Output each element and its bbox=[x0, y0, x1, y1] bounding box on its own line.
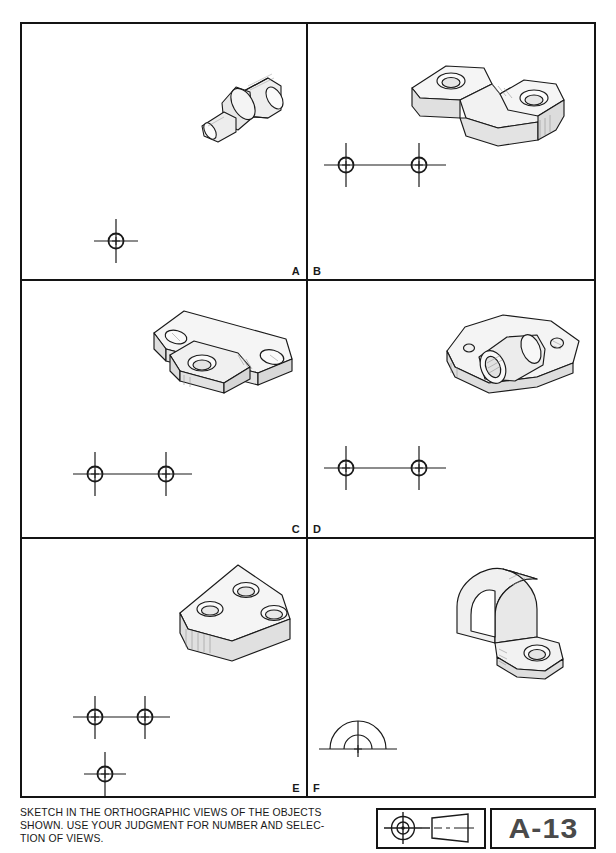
panel-grid: A bbox=[20, 22, 596, 798]
panel-d[interactable]: D bbox=[308, 281, 594, 538]
panel-c[interactable]: C bbox=[22, 281, 308, 538]
layout-marks-panel-b bbox=[321, 134, 457, 196]
panel-a[interactable]: A bbox=[22, 24, 308, 281]
panel-label-f: F bbox=[313, 782, 320, 794]
layout-marks-panel-a bbox=[76, 210, 156, 272]
pictorial-triangular-three-hole-plate bbox=[170, 557, 308, 662]
panel-e[interactable]: E bbox=[22, 539, 308, 796]
view-symbol-box bbox=[376, 808, 486, 849]
panel-label-d: D bbox=[313, 523, 321, 535]
pictorial-stepped-cylindrical-shaft bbox=[180, 56, 300, 166]
panel-f[interactable]: F bbox=[308, 539, 594, 796]
panel-label-b: B bbox=[313, 265, 321, 277]
layout-marks-panel-c bbox=[70, 443, 200, 505]
worksheet-sheet: A bbox=[0, 0, 616, 853]
title-strip: SKETCH IN THE ORTHOGRAPHIC VIEWS OF THE … bbox=[20, 806, 596, 851]
panel-label-c: C bbox=[292, 523, 300, 535]
layout-marks-panel-f bbox=[313, 705, 403, 767]
layout-marks-panel-e bbox=[70, 691, 200, 796]
orthographic-projection-symbol bbox=[378, 810, 484, 847]
pictorial-saddle-strap-clamp bbox=[433, 557, 573, 682]
sheet-number: A-13 bbox=[508, 813, 578, 845]
pictorial-angled-three-hole-bracket bbox=[132, 297, 308, 417]
panel-b[interactable]: B bbox=[308, 24, 594, 281]
panel-label-e: E bbox=[292, 782, 300, 794]
pictorial-offset-link-bracket bbox=[388, 50, 578, 180]
panel-label-a: A bbox=[292, 265, 300, 277]
sheet-number-box: A-13 bbox=[490, 808, 596, 849]
pictorial-flanged-bearing-bushing bbox=[433, 305, 593, 415]
layout-marks-panel-d bbox=[321, 437, 457, 499]
instructions-text: SKETCH IN THE ORTHOGRAPHIC VIEWS OF THE … bbox=[20, 806, 370, 846]
